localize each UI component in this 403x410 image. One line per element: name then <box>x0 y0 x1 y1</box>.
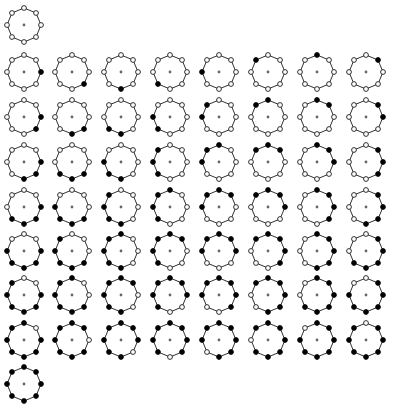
necklace-circle <box>344 318 388 362</box>
bead-open <box>119 53 124 58</box>
bead-filled <box>254 237 259 242</box>
bead-filled <box>303 305 308 310</box>
bead-open <box>131 58 136 63</box>
bead-open <box>82 58 87 63</box>
necklace-circle <box>2 362 46 406</box>
necklace-circle <box>50 50 94 94</box>
bead-filled <box>200 249 205 254</box>
bead-filled <box>254 350 259 355</box>
bead-open <box>180 148 185 153</box>
bead-filled <box>200 338 205 343</box>
bead-filled <box>364 310 369 315</box>
bead-open <box>131 148 136 153</box>
bead-filled <box>39 160 44 165</box>
bead-open <box>180 58 185 63</box>
bead-open <box>347 70 352 75</box>
bead-open <box>249 338 254 343</box>
bead-open <box>303 237 308 242</box>
necklace-circle <box>344 273 388 317</box>
bead-open <box>22 132 27 137</box>
necklace-hub-dot <box>23 24 26 27</box>
bead-filled <box>53 338 58 343</box>
bead-open <box>10 172 15 177</box>
bead-open <box>352 127 357 132</box>
bead-filled <box>156 127 161 132</box>
bead-open <box>303 326 308 331</box>
necklace-circle <box>344 229 388 273</box>
bead-open <box>376 127 381 132</box>
bead-open <box>229 58 234 63</box>
necklace-hub-dot <box>169 294 172 297</box>
bead-open <box>131 193 136 198</box>
bead-filled <box>229 237 234 242</box>
bead-open <box>327 172 332 177</box>
necklace-circle <box>197 273 241 317</box>
bead-filled <box>34 350 39 355</box>
bead-open <box>205 305 210 310</box>
bead-filled <box>22 321 27 326</box>
bead-filled <box>70 321 75 326</box>
bead-filled <box>168 276 173 281</box>
bead-open <box>107 82 112 87</box>
bead-open <box>180 127 185 132</box>
bead-open <box>136 249 141 254</box>
bead-filled <box>303 350 308 355</box>
necklace-circle <box>246 318 290 362</box>
bead-open <box>352 237 357 242</box>
bead-filled <box>229 281 234 286</box>
bead-filled <box>34 217 39 222</box>
bead-filled <box>168 232 173 237</box>
bead-open <box>254 172 259 177</box>
necklace-hub-dot <box>120 161 123 164</box>
necklace-hub-dot <box>23 383 26 386</box>
bead-open <box>10 11 15 16</box>
bead-filled <box>327 326 332 331</box>
bead-open <box>249 160 254 165</box>
bead-filled <box>22 177 27 182</box>
necklace-circle <box>2 229 46 273</box>
bead-filled <box>151 249 156 254</box>
bead-filled <box>10 394 15 399</box>
necklace-hub-dot <box>365 206 368 209</box>
bead-open <box>278 82 283 87</box>
bead-filled <box>205 281 210 286</box>
bead-open <box>168 310 173 315</box>
bead-open <box>234 205 239 210</box>
bead-open <box>180 103 185 108</box>
bead-filled <box>234 338 239 343</box>
bead-filled <box>376 103 381 108</box>
bead-filled <box>156 326 161 331</box>
bead-filled <box>39 293 44 298</box>
bead-filled <box>107 172 112 177</box>
bead-open <box>352 103 357 108</box>
necklace-circle <box>50 318 94 362</box>
bead-open <box>278 103 283 108</box>
bead-open <box>278 217 283 222</box>
necklace-circle <box>50 95 94 139</box>
bead-filled <box>156 148 161 153</box>
bead-open <box>364 87 369 92</box>
bead-open <box>87 205 92 210</box>
bead-open <box>327 127 332 132</box>
bead-filled <box>200 115 205 120</box>
bead-open <box>364 132 369 137</box>
bead-filled <box>278 350 283 355</box>
bead-filled <box>151 115 156 120</box>
bead-open <box>10 103 15 108</box>
necklace-circle <box>148 50 192 94</box>
necklace-circle <box>295 273 339 317</box>
bead-filled <box>315 355 320 360</box>
necklace-circle <box>295 318 339 362</box>
bead-filled <box>58 237 63 242</box>
bead-open <box>249 249 254 254</box>
necklace-hub-dot <box>218 294 221 297</box>
bead-filled <box>107 261 112 266</box>
bead-open <box>364 53 369 58</box>
necklace-circle <box>197 318 241 362</box>
bead-open <box>131 217 136 222</box>
necklace-hub-dot <box>365 161 368 164</box>
bead-open <box>70 232 75 237</box>
bead-open <box>266 132 271 137</box>
bead-open <box>107 148 112 153</box>
bead-filled <box>352 350 357 355</box>
